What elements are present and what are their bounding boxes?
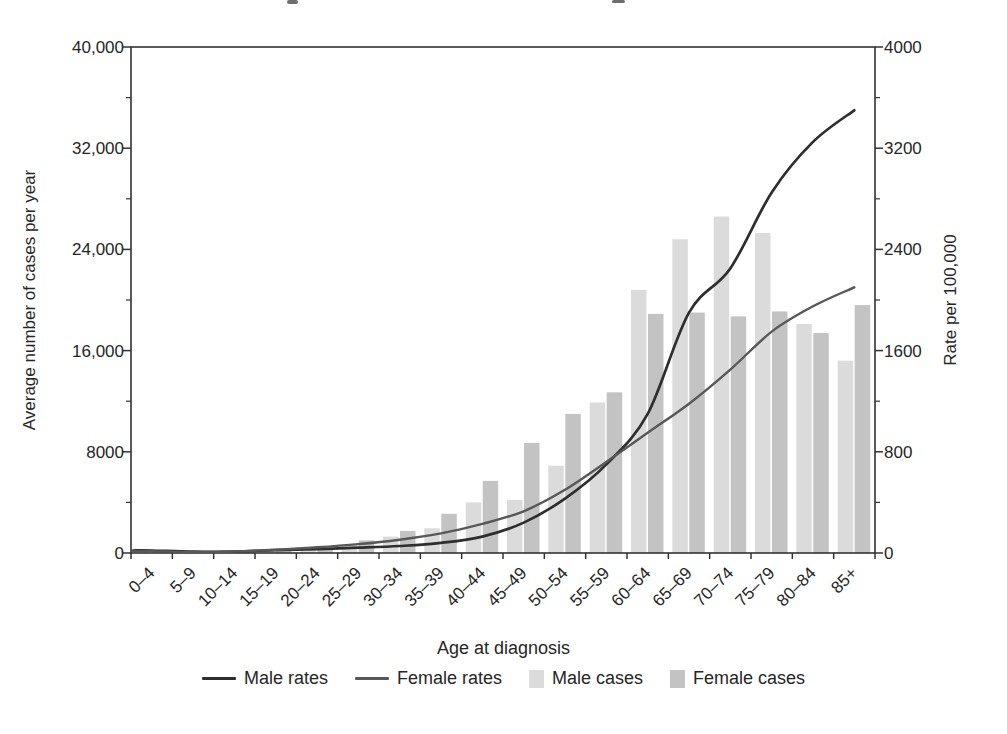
bar-male-cases	[672, 239, 688, 553]
right-axis-tick-label: 1600	[884, 342, 922, 361]
right-axis-tick-label: 0	[884, 544, 893, 563]
bar-female-cases	[400, 531, 416, 553]
x-axis-category-label: 85+	[827, 563, 861, 597]
x-axis-category-label: 30–34	[360, 563, 407, 610]
left-axis-tick-label: 16,000	[72, 342, 124, 361]
x-axis-category-label: 80–84	[773, 563, 820, 610]
x-axis-category-label: 35–39	[401, 563, 448, 610]
bar-male-cases	[755, 233, 771, 553]
bar-female-cases	[772, 311, 788, 553]
legend-item-male-cases: Male cases	[529, 668, 643, 689]
legend-label: Female cases	[693, 668, 805, 689]
bar-male-cases	[838, 361, 854, 553]
x-axis-category-label: 25–29	[318, 563, 365, 610]
legend-label: Male cases	[552, 668, 643, 689]
bar-male-cases	[714, 217, 730, 554]
x-axis-category-label: 70–74	[690, 563, 737, 610]
x-axis-category-label: 0–4	[125, 563, 158, 596]
x-axis-title: Age at diagnosis	[0, 638, 1007, 659]
right-axis-tick-label: 3200	[884, 139, 922, 158]
left-axis-tick-label: 32,000	[72, 139, 124, 158]
left-axis-tick-label: 40,000	[72, 38, 124, 57]
x-axis-category-label: 20–24	[277, 563, 324, 610]
chart-plot-area: 0800016,00024,00032,00040,00008001600240…	[0, 0, 1007, 734]
bar-male-cases	[796, 324, 812, 553]
x-axis-category-label: 75–79	[732, 563, 779, 610]
incidence-chart-figure: 0800016,00024,00032,00040,00008001600240…	[0, 0, 1007, 734]
legend-label: Male rates	[244, 668, 328, 689]
x-axis-category-label: 50–54	[525, 563, 572, 610]
right-axis-title: Rate per 100,000	[941, 234, 961, 365]
legend-label: Female rates	[397, 668, 502, 689]
legend-item-male-rates: Male rates	[202, 668, 328, 689]
x-axis-category-label: 15–19	[236, 563, 283, 610]
left-axis-tick-label: 24,000	[72, 240, 124, 259]
x-axis-category-label: 60–64	[608, 563, 655, 610]
right-axis-tick-label: 2400	[884, 240, 922, 259]
legend: Male rates Female rates Male cases Femal…	[0, 668, 1007, 689]
x-axis-category-label: 55–59	[566, 563, 613, 610]
x-axis-category-label: 65–69	[649, 563, 696, 610]
bar-male-cases	[424, 528, 440, 553]
bar-female-cases	[524, 443, 540, 553]
x-axis-category-label: 40–44	[442, 563, 489, 610]
male-rates-line-swatch	[202, 677, 236, 680]
bar-female-cases	[813, 333, 829, 553]
female-rates-line-swatch	[355, 677, 389, 680]
legend-item-female-rates: Female rates	[355, 668, 502, 689]
bar-female-cases	[855, 305, 871, 553]
left-axis-tick-label: 8000	[86, 443, 124, 462]
right-axis-tick-label: 4000	[884, 38, 922, 57]
bar-female-cases	[731, 316, 747, 553]
right-axis-tick-label: 800	[884, 443, 912, 462]
left-axis-tick-label: 0	[115, 544, 124, 563]
x-axis-category-label: 10–14	[194, 563, 241, 610]
female-cases-bar-swatch	[670, 670, 685, 688]
left-axis-title: Average number of cases per year	[20, 170, 40, 431]
bar-female-cases	[607, 392, 623, 553]
x-axis-category-label: 5–9	[166, 563, 199, 596]
x-axis-category-label: 45–49	[484, 563, 531, 610]
bar-female-cases	[648, 314, 664, 553]
legend-item-female-cases: Female cases	[670, 668, 805, 689]
bar-female-cases	[483, 481, 499, 553]
male-cases-bar-swatch	[529, 670, 544, 688]
bar-female-cases	[689, 313, 705, 553]
